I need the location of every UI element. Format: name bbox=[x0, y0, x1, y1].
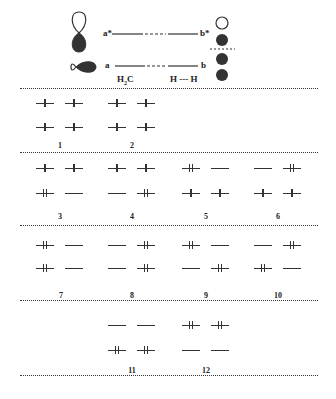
fragment-label-h2c: H2C bbox=[117, 74, 134, 86]
electron-icon bbox=[192, 164, 193, 172]
energy-level-empty bbox=[65, 189, 83, 197]
electron-icon bbox=[293, 241, 294, 249]
filled-circle-icon bbox=[216, 69, 228, 81]
energy-level-double bbox=[36, 264, 54, 272]
energy-level-double bbox=[182, 321, 200, 329]
label-a-star: a* bbox=[103, 28, 112, 38]
config-label: 7 bbox=[59, 291, 63, 300]
separator bbox=[20, 300, 318, 301]
electron-icon bbox=[144, 241, 145, 249]
energy-level-double bbox=[211, 264, 229, 272]
energy-level-double bbox=[211, 321, 229, 329]
electron-icon bbox=[116, 99, 117, 107]
energy-level-double bbox=[36, 189, 54, 197]
electron-icon bbox=[192, 321, 193, 329]
energy-level-single bbox=[182, 189, 200, 197]
energy-level-double bbox=[182, 164, 200, 172]
energy-level-double bbox=[254, 264, 272, 272]
electron-icon bbox=[290, 241, 291, 249]
energy-level-single bbox=[108, 99, 126, 107]
energy-level-single bbox=[36, 164, 54, 172]
electron-icon bbox=[189, 321, 190, 329]
p-orbital-vertical-icon bbox=[72, 12, 86, 52]
energy-level-empty bbox=[137, 321, 155, 329]
config-label: 1 bbox=[58, 141, 62, 150]
electron-icon bbox=[189, 164, 190, 172]
electron-icon bbox=[293, 164, 294, 172]
energy-level-single bbox=[254, 189, 272, 197]
energy-level-double bbox=[108, 346, 126, 354]
empty-circle-icon bbox=[216, 17, 228, 29]
separator bbox=[20, 375, 318, 376]
energy-level-single bbox=[137, 123, 155, 131]
electron-icon bbox=[115, 346, 116, 354]
energy-level-double bbox=[137, 241, 155, 249]
energy-level-single bbox=[36, 99, 54, 107]
energy-level-empty bbox=[182, 264, 200, 272]
electron-icon bbox=[147, 346, 148, 354]
energy-level-empty bbox=[65, 264, 83, 272]
electron-icon bbox=[46, 189, 47, 197]
energy-level-empty bbox=[108, 264, 126, 272]
config-label: 3 bbox=[58, 212, 62, 221]
electron-icon bbox=[118, 346, 119, 354]
energy-level-single bbox=[108, 164, 126, 172]
separator bbox=[20, 225, 318, 226]
filled-circle-icon bbox=[216, 34, 228, 46]
energy-level-single bbox=[137, 164, 155, 172]
electron-icon bbox=[145, 99, 146, 107]
electron-icon bbox=[145, 123, 146, 131]
energy-level-double bbox=[137, 264, 155, 272]
separator bbox=[20, 152, 318, 153]
electron-icon bbox=[73, 123, 74, 131]
orbital-diagram: a* b* a b H2C H --- H bbox=[0, 0, 336, 90]
electron-icon bbox=[219, 189, 220, 197]
config-label: 6 bbox=[276, 212, 280, 221]
electron-icon bbox=[221, 321, 222, 329]
energy-level-single bbox=[283, 189, 301, 197]
energy-level-single bbox=[65, 164, 83, 172]
electron-icon bbox=[147, 264, 148, 272]
config-label: 2 bbox=[130, 141, 134, 150]
electron-icon bbox=[290, 164, 291, 172]
energy-level-double bbox=[283, 164, 301, 172]
filled-circle-icon bbox=[216, 53, 228, 65]
label-b-star: b* bbox=[200, 28, 210, 38]
energy-level-empty bbox=[108, 321, 126, 329]
electron-icon bbox=[190, 189, 191, 197]
electron-icon bbox=[192, 241, 193, 249]
electron-icon bbox=[262, 189, 263, 197]
electron-icon bbox=[147, 241, 148, 249]
electron-icon bbox=[73, 99, 74, 107]
energy-level-empty bbox=[65, 241, 83, 249]
electron-icon bbox=[218, 264, 219, 272]
electron-icon bbox=[264, 264, 265, 272]
electron-icon bbox=[261, 264, 262, 272]
label-a: a bbox=[105, 60, 110, 70]
electron-icon bbox=[43, 264, 44, 272]
energy-level-single bbox=[65, 99, 83, 107]
electron-icon bbox=[144, 189, 145, 197]
sp-orbital-horizontal-icon bbox=[71, 62, 96, 73]
energy-level-double bbox=[137, 346, 155, 354]
energy-level-single bbox=[211, 189, 229, 197]
energy-level-empty bbox=[254, 164, 272, 172]
electron-icon bbox=[145, 164, 146, 172]
electron-icon bbox=[291, 189, 292, 197]
config-label: 5 bbox=[204, 212, 208, 221]
electron-icon bbox=[44, 99, 45, 107]
energy-level-empty bbox=[254, 241, 272, 249]
config-label: 11 bbox=[128, 366, 136, 375]
energy-level-empty bbox=[108, 241, 126, 249]
config-label: 9 bbox=[204, 291, 208, 300]
config-label: 10 bbox=[274, 291, 282, 300]
electron-icon bbox=[46, 241, 47, 249]
energy-level-double bbox=[283, 241, 301, 249]
electron-icon bbox=[43, 241, 44, 249]
electron-icon bbox=[221, 264, 222, 272]
energy-level-empty bbox=[211, 241, 229, 249]
electron-icon bbox=[46, 264, 47, 272]
electron-icon bbox=[144, 264, 145, 272]
energy-level-single bbox=[65, 123, 83, 131]
electron-icon bbox=[147, 189, 148, 197]
